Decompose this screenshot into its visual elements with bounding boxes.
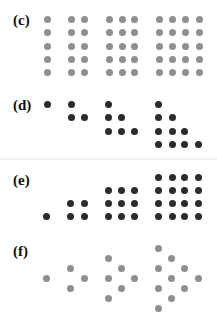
dot-e <box>131 187 138 194</box>
dot-c <box>182 69 189 76</box>
dot-f <box>168 255 175 262</box>
dot-e <box>181 187 188 194</box>
dot-d <box>44 101 51 108</box>
dot-e <box>181 200 188 207</box>
dot-e <box>181 174 188 181</box>
dot-e <box>105 213 112 220</box>
dot-f <box>168 295 175 302</box>
dot-e <box>105 200 112 207</box>
dot-c <box>68 43 75 50</box>
dot-c <box>81 56 88 63</box>
dot-c <box>156 56 163 63</box>
dot-c <box>68 69 75 76</box>
dot-c <box>182 56 189 63</box>
dot-c <box>196 29 203 36</box>
dot-c <box>131 16 138 23</box>
dot-f <box>155 285 162 292</box>
dot-e <box>67 213 74 220</box>
dot-e <box>155 174 162 181</box>
dot-f <box>155 305 162 312</box>
dot-c <box>182 16 189 23</box>
dot-e <box>169 187 176 194</box>
dot-e <box>67 200 74 207</box>
dot-d <box>155 141 162 148</box>
dot-e <box>81 200 88 207</box>
dot-d <box>169 141 176 148</box>
dot-e <box>195 187 202 194</box>
dot-d <box>118 114 125 121</box>
dot-e <box>81 213 88 220</box>
dot-e <box>43 213 50 220</box>
dot-d <box>195 141 202 148</box>
dot-f <box>155 265 162 272</box>
dot-e <box>131 200 138 207</box>
dot-e <box>155 187 162 194</box>
dot-d <box>169 128 176 135</box>
dot-c <box>119 16 126 23</box>
dot-e <box>118 213 125 220</box>
dot-d <box>181 128 188 135</box>
dot-c <box>106 16 113 23</box>
dot-e <box>118 187 125 194</box>
dot-d <box>155 114 162 121</box>
dot-c <box>169 69 176 76</box>
dot-d <box>169 114 176 121</box>
dot-c <box>81 43 88 50</box>
dot-c <box>119 29 126 36</box>
dot-f <box>105 275 112 282</box>
dot-c <box>106 56 113 63</box>
dot-f <box>181 265 188 272</box>
dot-f <box>105 255 112 262</box>
dot-c <box>44 16 51 23</box>
dot-c <box>68 29 75 36</box>
dot-f <box>118 285 125 292</box>
dot-c <box>131 69 138 76</box>
dot-c <box>156 29 163 36</box>
dot-e <box>169 213 176 220</box>
panel-label-d: (d) <box>13 97 31 113</box>
dot-f <box>118 265 125 272</box>
dot-c <box>169 43 176 50</box>
dot-c <box>196 56 203 63</box>
dot-c <box>68 56 75 63</box>
dot-c <box>131 29 138 36</box>
dot-f <box>168 275 175 282</box>
panel-label-e: (e) <box>13 172 30 188</box>
dot-e <box>195 174 202 181</box>
dot-f <box>131 275 138 282</box>
dot-c <box>156 69 163 76</box>
dot-d <box>105 114 112 121</box>
dot-f <box>67 265 74 272</box>
dot-c <box>196 43 203 50</box>
dot-c <box>81 16 88 23</box>
dot-d <box>105 101 112 108</box>
dot-c <box>44 69 51 76</box>
dot-f <box>81 275 88 282</box>
dot-c <box>68 16 75 23</box>
dot-c <box>182 29 189 36</box>
dot-d <box>118 128 125 135</box>
dot-c <box>169 29 176 36</box>
dot-c <box>81 69 88 76</box>
dot-c <box>131 43 138 50</box>
dot-d <box>181 141 188 148</box>
dot-d <box>68 114 75 121</box>
dot-c <box>81 29 88 36</box>
dot-c <box>156 43 163 50</box>
dot-d <box>155 101 162 108</box>
dot-c <box>196 16 203 23</box>
dot-e <box>181 213 188 220</box>
dot-c <box>119 43 126 50</box>
dot-f <box>43 275 50 282</box>
dot-f <box>67 285 74 292</box>
dot-c <box>106 43 113 50</box>
dot-d <box>81 114 88 121</box>
dot-c <box>196 69 203 76</box>
dot-c <box>106 29 113 36</box>
dot-e <box>169 200 176 207</box>
dot-c <box>119 69 126 76</box>
dot-c <box>106 69 113 76</box>
dot-e <box>169 174 176 181</box>
dot-c <box>169 56 176 63</box>
dot-c <box>44 56 51 63</box>
